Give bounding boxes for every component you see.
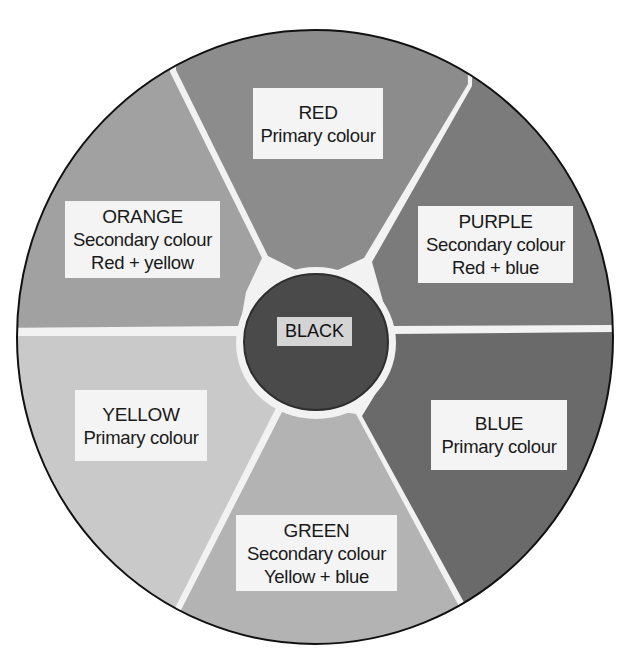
- label-green-title: GREEN: [283, 519, 349, 542]
- label-blue: BLUE Primary colour: [431, 400, 567, 470]
- label-orange-title: ORANGE: [102, 205, 183, 228]
- label-purple: PURPLE Secondary colour Red + blue: [418, 206, 573, 283]
- label-purple-mix: Red + blue: [452, 256, 539, 279]
- label-purple-kind: Secondary colour: [426, 233, 565, 256]
- label-green-kind: Secondary colour: [247, 542, 386, 565]
- label-orange-mix: Red + yellow: [91, 251, 194, 274]
- label-red-title: RED: [298, 101, 337, 124]
- label-green-mix: Yellow + blue: [264, 565, 369, 588]
- label-red: RED Primary colour: [253, 88, 383, 159]
- label-yellow-title: YELLOW: [102, 403, 179, 426]
- label-red-kind: Primary colour: [260, 124, 375, 147]
- label-blue-kind: Primary colour: [441, 435, 556, 458]
- label-purple-title: PURPLE: [458, 210, 532, 233]
- label-black: BLACK: [277, 317, 352, 346]
- label-orange: ORANGE Secondary colour Red + yellow: [65, 201, 220, 278]
- label-green: GREEN Secondary colour Yellow + blue: [236, 515, 397, 591]
- label-orange-kind: Secondary colour: [73, 228, 212, 251]
- label-yellow-kind: Primary colour: [83, 426, 198, 449]
- label-yellow: YELLOW Primary colour: [75, 390, 207, 461]
- label-blue-title: BLUE: [475, 412, 523, 435]
